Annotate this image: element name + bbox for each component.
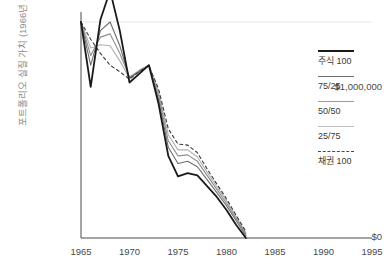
legend-swatch-icon bbox=[318, 101, 354, 102]
legend-label: 50/50 bbox=[318, 105, 380, 117]
legend-item-4[interactable]: 채권 100 bbox=[318, 151, 380, 167]
legend-label: 주식 100 bbox=[318, 55, 380, 67]
x-axis-tick-1980: 1980 bbox=[207, 246, 247, 257]
x-axis-tick-1995: 1995 bbox=[352, 246, 387, 257]
x-axis-tick-1990: 1990 bbox=[304, 246, 344, 257]
x-axis-tick-1970: 1970 bbox=[110, 246, 150, 257]
legend-label: 채권 100 bbox=[318, 155, 380, 167]
legend-swatch-icon bbox=[318, 50, 354, 52]
legend-swatch-icon bbox=[318, 126, 354, 127]
legend-label: 25/75 bbox=[318, 130, 380, 142]
legend: 주식 10075/2550/5025/75채권 100 bbox=[318, 50, 380, 176]
legend-item-2[interactable]: 50/50 bbox=[318, 101, 380, 117]
x-axis-tick-1975: 1975 bbox=[158, 246, 198, 257]
legend-item-3[interactable]: 25/75 bbox=[318, 126, 380, 142]
series-lines bbox=[81, 0, 246, 238]
legend-item-1[interactable]: 75/25 bbox=[318, 76, 380, 92]
x-axis-tick-1985: 1985 bbox=[255, 246, 295, 257]
legend-swatch-icon bbox=[318, 151, 354, 152]
x-axis-tick-1965: 1965 bbox=[61, 246, 101, 257]
legend-label: 75/25 bbox=[318, 80, 380, 92]
legend-item-0[interactable]: 주식 100 bbox=[318, 50, 380, 67]
legend-swatch-icon bbox=[318, 76, 354, 77]
